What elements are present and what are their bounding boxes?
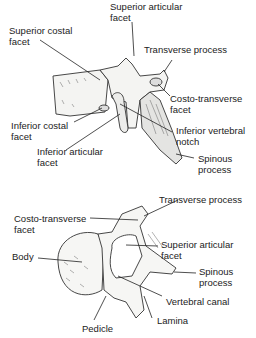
- label-line: Superior articular: [110, 2, 182, 13]
- label-line: Transverse process: [159, 195, 242, 206]
- label-line: Pedicle: [82, 324, 113, 335]
- label-line: Lamina: [157, 316, 188, 327]
- label-line: Inferior vertebral: [176, 126, 245, 137]
- label-vertebral-canal: Vertebral canal: [166, 297, 229, 308]
- label-pedicle: Pedicle: [82, 324, 113, 335]
- label-line: facet: [37, 158, 103, 169]
- label-superior-articular-facet-lateral: Superior articular facet: [110, 2, 182, 23]
- label-spinous-process-lateral: Spinous process: [198, 154, 232, 175]
- label-spinous-process-superior: Spinous process: [199, 267, 233, 288]
- label-line: Superior costal: [9, 26, 72, 37]
- label-line: process: [199, 278, 233, 289]
- label-line: facet: [110, 13, 182, 24]
- label-transverse-process-lateral: Transverse process: [144, 45, 227, 56]
- label-body: Body: [12, 252, 34, 263]
- label-inferior-articular-facet: Inferior articular facet: [37, 147, 103, 168]
- lateral-inferior-costal-facet: [99, 105, 109, 111]
- label-lamina: Lamina: [157, 316, 188, 327]
- label-inferior-costal-facet: Inferior costal facet: [11, 121, 68, 142]
- label-line: process: [198, 165, 232, 176]
- label-superior-articular-facet-superior: Superior articular facet: [161, 240, 233, 261]
- label-costo-transverse-facet-superior: Costo-transverse facet: [14, 214, 86, 235]
- label-line: Vertebral canal: [166, 297, 229, 308]
- label-line: Spinous: [198, 154, 232, 165]
- label-transverse-process-superior: Transverse process: [159, 195, 242, 206]
- label-line: facet: [14, 225, 86, 236]
- label-line: facet: [161, 251, 233, 262]
- label-inferior-vertebral-notch: Inferior vertebral notch: [176, 126, 245, 147]
- label-line: Inferior costal: [11, 121, 68, 132]
- label-line: Transverse process: [144, 45, 227, 56]
- label-line: Costo-transverse: [170, 94, 242, 105]
- superior-vertebral-body: [58, 232, 104, 294]
- label-superior-costal-facet: Superior costal facet: [9, 26, 72, 47]
- label-line: Costo-transverse: [14, 214, 86, 225]
- label-line: facet: [170, 105, 242, 116]
- label-costo-transverse-facet-lateral: Costo-transverse facet: [170, 94, 242, 115]
- label-line: facet: [9, 37, 72, 48]
- label-line: Body: [12, 252, 34, 263]
- label-line: notch: [176, 137, 245, 148]
- label-line: Inferior articular: [37, 147, 103, 158]
- label-line: facet: [11, 132, 68, 143]
- label-line: Spinous: [199, 267, 233, 278]
- lateral-costo-transverse-facet: [150, 78, 162, 86]
- label-line: Superior articular: [161, 240, 233, 251]
